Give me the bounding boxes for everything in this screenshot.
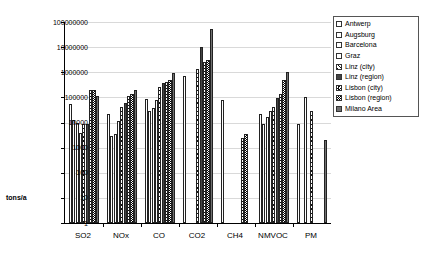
legend-item-label: Linz (city) bbox=[345, 63, 375, 71]
category-separator bbox=[179, 223, 180, 227]
x-axis-label-so2: SO2 bbox=[64, 231, 102, 240]
legend-item-milano-area[interactable]: Milano Area bbox=[336, 104, 416, 115]
bar-nmvoc-milano-area bbox=[286, 72, 289, 223]
legend-item-label: Graz bbox=[345, 52, 360, 60]
y-axis-label: 1 bbox=[22, 220, 88, 227]
legend-swatch-icon bbox=[336, 21, 342, 27]
legend-swatch-icon bbox=[336, 85, 342, 91]
legend-item-label: Lisbon (region) bbox=[345, 94, 392, 102]
y-axis-label: 100 bbox=[22, 169, 88, 176]
legend-swatch-icon bbox=[336, 42, 342, 48]
legend-item-label: Lisbon (city) bbox=[345, 84, 383, 92]
bar-pm-milano-area bbox=[324, 140, 327, 223]
legend-swatch-icon bbox=[336, 95, 342, 101]
y-axis-label: 1000000 bbox=[22, 69, 88, 76]
legend-item-label: Antwerp bbox=[345, 20, 371, 28]
x-axis-label-nox: NOx bbox=[102, 231, 140, 240]
legend-item-lisbon-region[interactable]: Lisbon (region) bbox=[336, 93, 416, 104]
gridline bbox=[65, 47, 331, 48]
category-separator bbox=[293, 223, 294, 227]
legend-item-label: Barcelona bbox=[345, 41, 377, 49]
legend-item-label: Linz (region) bbox=[345, 73, 384, 81]
legend-swatch-icon bbox=[336, 106, 342, 112]
bar-co2-milano-area bbox=[210, 29, 213, 223]
legend-item-barcelona[interactable]: Barcelona bbox=[336, 40, 416, 51]
legend-item-linz-city[interactable]: Linz (city) bbox=[336, 61, 416, 72]
legend-swatch-icon bbox=[336, 64, 342, 70]
emissions-bar-chart: tons/a AntwerpAugsburgBarcelonaGrazLinz … bbox=[0, 0, 424, 259]
bar-ch4-lisbon-region bbox=[244, 134, 247, 223]
x-axis-label-ch4: CH4 bbox=[216, 231, 254, 240]
bar-so2-milano-area bbox=[96, 96, 99, 223]
gridline bbox=[65, 22, 331, 23]
bar-ch4-antwerp bbox=[221, 100, 224, 223]
y-axis-label: 1000 bbox=[22, 144, 88, 151]
legend-item-label: Milano Area bbox=[345, 105, 382, 113]
legend-item-linz-region[interactable]: Linz (region) bbox=[336, 72, 416, 83]
bar-pm-barcelona bbox=[304, 97, 307, 223]
y-axis-label: 100000000 bbox=[22, 19, 88, 26]
bar-co2-antwerp bbox=[183, 76, 186, 223]
legend-item-label: Augsburg bbox=[345, 31, 375, 39]
chart-legend: AntwerpAugsburgBarcelonaGrazLinz (city)L… bbox=[333, 16, 419, 117]
legend-swatch-icon bbox=[336, 32, 342, 38]
bar-nox-milano-area bbox=[134, 90, 137, 223]
y-axis-label: 100000 bbox=[22, 94, 88, 101]
x-axis-label-pm: PM bbox=[292, 231, 330, 240]
legend-item-antwerp[interactable]: Antwerp bbox=[336, 19, 416, 30]
y-axis-label: 10000000 bbox=[22, 44, 88, 51]
legend-swatch-icon bbox=[336, 74, 342, 80]
category-separator bbox=[103, 223, 104, 227]
bar-pm-linz-city bbox=[310, 111, 313, 223]
legend-item-graz[interactable]: Graz bbox=[336, 51, 416, 62]
legend-item-augsburg[interactable]: Augsburg bbox=[336, 30, 416, 41]
legend-swatch-icon bbox=[336, 53, 342, 59]
category-separator bbox=[141, 223, 142, 227]
y-axis-label: 10 bbox=[22, 194, 88, 201]
x-axis-label-nmvoc: NMVOC bbox=[254, 231, 292, 240]
category-separator bbox=[217, 223, 218, 227]
x-axis-label-co2: CO2 bbox=[178, 231, 216, 240]
x-axis-label-co: CO bbox=[140, 231, 178, 240]
bar-pm-antwerp bbox=[297, 124, 300, 223]
legend-item-lisbon-city[interactable]: Lisbon (city) bbox=[336, 83, 416, 94]
plot-area bbox=[64, 22, 331, 224]
category-separator bbox=[255, 223, 256, 227]
y-axis-label: 10000 bbox=[22, 119, 88, 126]
bar-co-milano-area bbox=[172, 73, 175, 223]
